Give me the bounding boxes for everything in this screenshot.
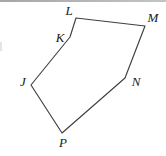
vertex-label-l: L bbox=[64, 3, 72, 18]
vertex-label-n: N bbox=[131, 74, 142, 89]
figure-canvas: L M N P J K bbox=[0, 0, 166, 156]
vertex-label-p: P bbox=[58, 135, 67, 150]
polygon-jklmnp bbox=[31, 18, 145, 133]
vertex-label-j: J bbox=[20, 74, 27, 89]
geometry-figure: L M N P J K bbox=[0, 0, 166, 156]
vertex-label-m: M bbox=[147, 10, 160, 25]
vertex-label-k: K bbox=[55, 30, 66, 45]
